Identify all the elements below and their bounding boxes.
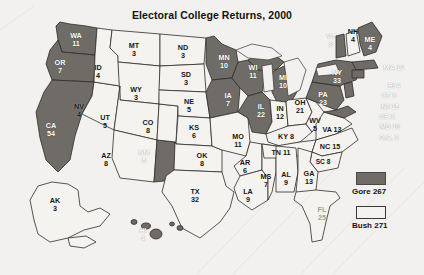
map-title: Electoral College Returns, 2000	[0, 9, 424, 21]
state-label-tx: TX 32	[190, 188, 199, 204]
state-label-mn: MN 10	[218, 54, 229, 70]
state-label-ne: NE 5	[184, 98, 194, 114]
state-label-mt: MT 3	[129, 42, 139, 58]
state-label-co: CO 8	[143, 119, 154, 135]
state-label-al: AL 9	[281, 171, 291, 187]
state-label-vt: VT 3	[326, 33, 335, 49]
legend-row-gore: Gore 267	[352, 172, 420, 206]
state-label-nc: NC 15	[320, 143, 340, 151]
state-label-ct: CT 8	[382, 92, 396, 99]
state-label-wy: WY 3	[130, 86, 142, 102]
state-label-ma: MA 12	[384, 64, 405, 72]
state-label-ky: KY 8	[278, 133, 294, 141]
legend-swatch-gore	[356, 172, 386, 185]
state-label-nm: NM 5	[138, 149, 149, 165]
map-legend: Gore 267 Bush 271	[352, 172, 420, 240]
state-label-or: OR 7	[55, 59, 66, 75]
state-label-fl: FL 25	[318, 206, 327, 222]
legend-row-bush: Bush 271	[352, 206, 420, 240]
state-label-ny: NY 33	[332, 69, 342, 85]
lake-michigan	[262, 64, 274, 92]
state-shape-ct	[352, 70, 364, 78]
state-label-ut: UT 5	[100, 114, 110, 130]
state-label-ak: AK 3	[50, 197, 60, 213]
state-label-wa: WA 11	[70, 32, 82, 48]
state-label-ok: OK 8	[197, 152, 208, 168]
state-label-oh: OH 21	[295, 99, 306, 115]
state-label-ca: CA 54	[46, 122, 56, 138]
state-shape-co	[157, 104, 178, 142]
electoral-college-map-figure: Electoral College Returns, 2000 .st { st…	[0, 0, 424, 275]
state-label-me: ME 4	[365, 36, 376, 52]
state-label-id: ID 4	[94, 64, 101, 80]
state-label-wi: WI 11	[249, 64, 258, 80]
state-label-nh: NH 4	[348, 28, 358, 44]
state-label-ms: MS 7	[261, 173, 272, 189]
state-label-in: IN 12	[276, 105, 284, 121]
state-label-ga: GA 13	[304, 170, 315, 186]
state-label-il: IL 22	[257, 103, 265, 119]
state-label-sc: SC 8	[316, 158, 331, 165]
state-label-de: DE 3	[380, 113, 395, 120]
state-label-va: VA 13	[322, 126, 341, 134]
legend-label-bush: Bush 271	[352, 221, 388, 230]
state-label-sd: SD 3	[181, 71, 191, 87]
state-label-tn: TN 11	[271, 149, 290, 157]
state-label-nj: NJ 15	[381, 103, 399, 110]
state-shape-nj	[344, 82, 354, 98]
state-label-mi: MI 10	[279, 74, 287, 90]
state-shape-vt	[336, 34, 346, 58]
state-label-ar: AR 6	[240, 159, 250, 175]
state-label-dc: D.C. 3	[380, 134, 399, 141]
legend-swatch-bush	[356, 206, 386, 219]
state-label-la: LA 9	[243, 188, 253, 204]
state-label-wv: WV 5	[309, 117, 321, 133]
state-label-md: MD 10	[380, 123, 399, 130]
state-label-hi: HI 4	[139, 227, 146, 243]
state-label-pa: PA 23	[318, 91, 327, 107]
state-label-nv: NV 4	[74, 103, 84, 119]
state-label-mo: MO 11	[232, 133, 244, 149]
legend-label-gore: Gore 267	[352, 187, 386, 196]
state-shape-ia	[206, 78, 240, 118]
state-label-ri: RI 4	[388, 82, 400, 89]
state-label-nd: ND 3	[178, 44, 188, 60]
state-label-ia: IA 7	[224, 92, 231, 108]
state-shape-ma	[352, 60, 378, 70]
state-label-ks: KS 6	[189, 124, 199, 140]
state-label-az: AZ 8	[101, 152, 111, 168]
